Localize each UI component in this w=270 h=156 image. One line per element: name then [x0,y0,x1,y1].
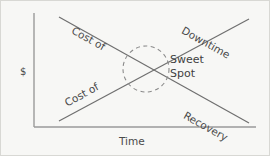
sweet-spot-line-1: Sweet [170,53,204,67]
y-axis-title: $ [20,67,26,77]
sweet-spot-circle [123,46,169,92]
sweet-spot-annotation: Sweet Spot [170,53,204,80]
sweet-spot-line-2: Spot [170,67,204,81]
chart-canvas: Cost of Downtime Cost of Recovery Sweet … [0,0,270,156]
x-axis-title: Time [119,136,145,147]
